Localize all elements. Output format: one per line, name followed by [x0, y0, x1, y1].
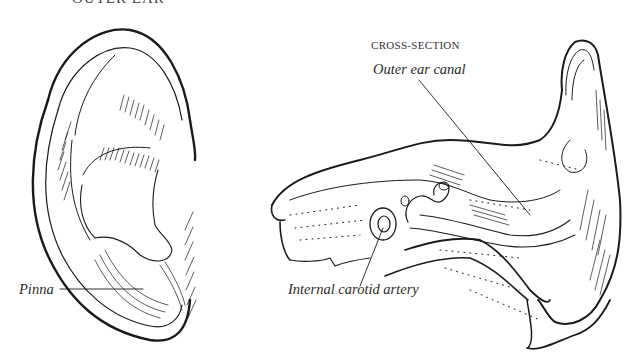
- cross-section-heading: CROSS-SECTION: [371, 39, 460, 51]
- cross-section-illustration: [272, 41, 621, 349]
- ear-diagram: OUTER EAR: [0, 0, 639, 364]
- label-outer-ear-canal: Outer ear canal: [373, 61, 466, 78]
- label-pinna: Pinna: [19, 281, 54, 298]
- label-internal-carotid-artery: Internal carotid artery: [288, 281, 419, 298]
- pinna-illustration: [0, 0, 639, 364]
